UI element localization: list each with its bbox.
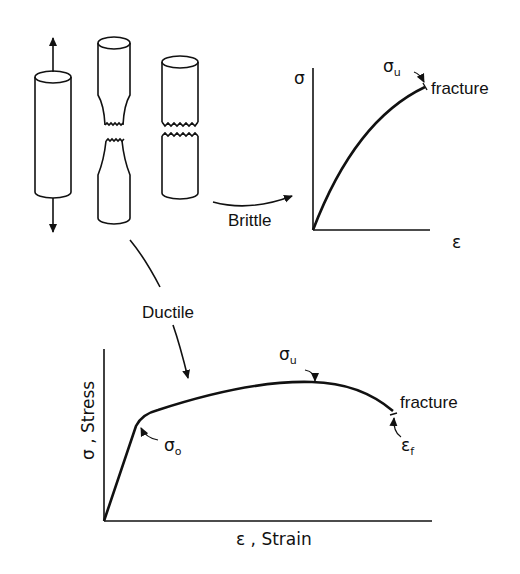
intact-specimen-icon [35, 38, 71, 232]
brittle-arrow-icon [213, 196, 292, 206]
yield-stress-label: σo [164, 435, 182, 455]
ductile-x-axis-label: ε , Strain [236, 529, 312, 549]
brittle-x-axis-label: ε [452, 232, 461, 252]
brittle-fracture-label: fracture [431, 79, 489, 99]
brittle-curve [313, 87, 425, 230]
ductile-curve [104, 382, 393, 521]
brittle-fracture-specimen-icon [162, 56, 198, 199]
brittle-label: Brittle [228, 211, 271, 231]
ductile-y-axis-label: σ , Stress [78, 381, 98, 460]
ductile-ultimate-stress-label: σu [279, 344, 297, 364]
ductile-fracture-specimen-icon [98, 37, 130, 224]
fracture-strain-label: εf [401, 435, 414, 455]
ductile-arrow-line [130, 240, 160, 287]
ductile-arrow-icon [173, 325, 188, 378]
brittle-y-axis-label: σ [294, 68, 305, 88]
brittle-ultimate-stress-label: σu [383, 56, 401, 76]
stress-strain-diagram: Brittle Ductile σ ε σu fracture σ , Stre… [0, 0, 520, 574]
ductile-label: Ductile [142, 303, 194, 323]
ductile-fracture-label: fracture [400, 393, 458, 413]
